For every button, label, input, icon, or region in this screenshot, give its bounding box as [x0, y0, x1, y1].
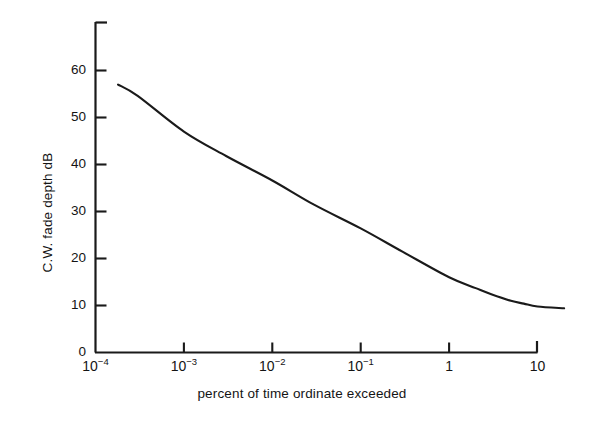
y-tick-label: 60	[48, 62, 86, 77]
x-tick-label: 1	[445, 358, 453, 374]
x-tick-label: 10−4	[82, 358, 108, 374]
x-axis-title: percent of time ordinate exceeded	[0, 386, 604, 401]
x-tick-label: 10−3	[171, 358, 197, 374]
y-tick-label: 0	[48, 344, 86, 359]
x-axis-ticks	[184, 343, 449, 353]
y-axis-title: C.W. fade depth dB	[40, 123, 55, 303]
chart-figure: 0102030405060 10−410−310−210−1110 C.W. f…	[0, 0, 604, 432]
x-tick-label: 10	[530, 358, 546, 374]
x-tick-label: 10−2	[259, 358, 285, 374]
x-tick-label: 10−1	[347, 358, 373, 374]
y-tick-label: 50	[48, 109, 86, 124]
data-series-line	[118, 85, 564, 309]
y-axis-ticks	[96, 71, 107, 306]
